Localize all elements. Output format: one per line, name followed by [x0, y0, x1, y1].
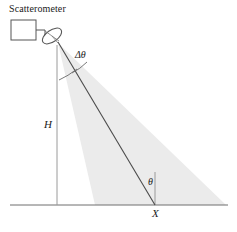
instrument-box-icon — [11, 20, 36, 40]
diagram-canvas — [0, 0, 237, 232]
beamwidth-delta-theta-label: Δθ — [75, 50, 86, 60]
page-title: Scatterometer — [9, 4, 66, 14]
antenna-dish-icon — [40, 25, 65, 47]
connector-cable-icon — [36, 30, 45, 36]
height-h-label: H — [44, 119, 52, 130]
scatterometer-geometry-diagram: Scatterometer Δθ H θ X — [0, 0, 237, 232]
beam-footprint-shading — [58, 43, 226, 205]
incidence-angle-theta-label: θ — [148, 177, 153, 187]
ground-point-x-label: X — [152, 208, 159, 219]
